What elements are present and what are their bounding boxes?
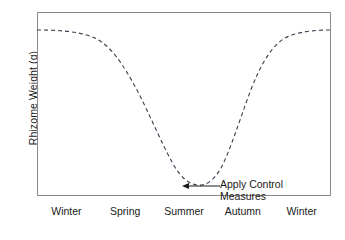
curve-path [37,30,331,185]
x-label-winter-start: Winter [37,205,96,221]
chart-figure: Rhizome Weight (g) Apply Control Measure… [0,0,345,240]
annotation-line-1: Apply Control [220,179,330,191]
x-label-summer: Summer [155,205,214,221]
annotation-label: Apply Control Measures [220,179,330,202]
annotation-line-2: Measures [220,191,330,203]
x-label-autumn: Autumn [213,205,272,221]
x-label-spring: Spring [96,205,155,221]
x-axis-labels: Winter Spring Summer Autumn Winter [37,205,331,221]
annotation-arrow [176,179,222,193]
arrow-head [182,183,189,189]
x-label-winter-end: Winter [272,205,331,221]
rhizome-weight-curve [37,12,331,196]
